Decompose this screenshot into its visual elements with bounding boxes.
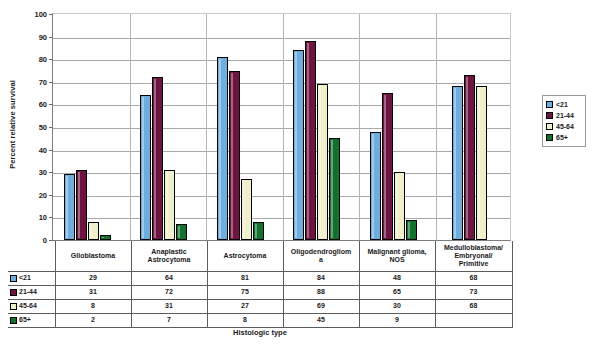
- table-column-header: Medulloblastoma/Embryonal/Primitive: [435, 241, 512, 272]
- y-axis-tick-label: 80: [39, 55, 47, 64]
- bar: [76, 170, 87, 240]
- legend-item[interactable]: 21-44: [546, 110, 582, 121]
- y-axis-title: Percent relative survival: [2, 0, 22, 248]
- table-cell: 68: [435, 272, 512, 286]
- table-column-header: Glioblastoma: [55, 241, 131, 272]
- legend-item-label: 21-44: [556, 112, 574, 119]
- gridline: [53, 218, 510, 219]
- table-row-label-text: <21: [19, 274, 31, 282]
- table-cell: 27: [207, 300, 283, 314]
- table-cell: 29: [55, 272, 131, 286]
- y-axis-tick-mark: [49, 127, 53, 128]
- y-axis-tick-label: 50: [39, 123, 47, 132]
- table-cell: 31: [55, 286, 131, 300]
- table-cell: 73: [435, 286, 512, 300]
- y-axis-tick-mark: [49, 195, 53, 196]
- bar: [394, 172, 405, 240]
- legend-item-label: <21: [556, 101, 568, 108]
- table-cell: 7: [131, 314, 207, 328]
- y-axis-tick-label: 10: [39, 213, 47, 222]
- table-column-header: Malignant glioma,NOS: [359, 241, 435, 272]
- bar: [293, 50, 304, 240]
- bar: [176, 224, 187, 240]
- table-cell: 84: [283, 272, 359, 286]
- bar: [88, 222, 99, 240]
- bar: [152, 77, 163, 240]
- y-axis-tick-mark: [49, 37, 53, 38]
- gridline: [53, 128, 510, 129]
- gridline: [53, 105, 510, 106]
- bar: [140, 95, 151, 240]
- legend-item-label: 45-64: [556, 123, 574, 130]
- table-cell: 65: [359, 286, 435, 300]
- legend-item[interactable]: <21: [546, 99, 582, 110]
- table-row-label: <21: [8, 272, 55, 286]
- table-cell: 88: [283, 286, 359, 300]
- group-separator: [359, 14, 360, 240]
- bar: [241, 179, 252, 240]
- table-row: 21-44317275886573: [8, 286, 512, 300]
- table-row-label: 65+: [8, 314, 55, 328]
- table-cell: 69: [283, 300, 359, 314]
- table-column-header: Astrocytoma: [207, 241, 283, 272]
- bar: [164, 170, 175, 240]
- table-cell: 8: [207, 314, 283, 328]
- legend-item-label: 65+: [556, 134, 568, 141]
- bar: [229, 71, 240, 241]
- table-column-header: AnaplasticAstrocytoma: [131, 241, 207, 272]
- y-axis-tick-label: 60: [39, 100, 47, 109]
- legend-swatch-icon: [546, 101, 553, 108]
- y-axis-tick-mark: [49, 217, 53, 218]
- y-axis-tick-mark: [49, 14, 53, 15]
- bar: [64, 174, 75, 240]
- bar: [100, 235, 111, 240]
- y-axis-tick-label: 30: [39, 168, 47, 177]
- bar: [452, 86, 463, 240]
- table-cell: 48: [359, 272, 435, 286]
- y-axis-tick-mark: [49, 172, 53, 173]
- table-row-swatch-icon: [10, 317, 17, 324]
- table-body: <2129648184486821-4431727588657345-64831…: [8, 272, 512, 328]
- table-row-swatch-icon: [10, 303, 17, 310]
- gridline: [53, 173, 510, 174]
- table-cell: 2: [55, 314, 131, 328]
- bar: [476, 86, 487, 240]
- table-cell: 8: [55, 300, 131, 314]
- table-row-swatch-icon: [10, 289, 17, 296]
- bar: [253, 222, 264, 240]
- legend-swatch-icon: [546, 123, 553, 130]
- chart-legend: <2121-4445-6465+: [542, 95, 586, 147]
- legend-item[interactable]: 65+: [546, 132, 582, 143]
- group-separator: [130, 14, 131, 240]
- chart-plot-area: [52, 13, 511, 241]
- table-cell: 45: [283, 314, 359, 328]
- bar: [382, 93, 393, 240]
- table-row-label-text: 65+: [19, 316, 31, 324]
- y-axis-tick-label: 40: [39, 145, 47, 154]
- bar: [305, 41, 316, 240]
- x-axis-title: Histologic type: [8, 328, 512, 337]
- bar: [317, 84, 328, 240]
- bar: [464, 75, 475, 240]
- y-axis-tick-mark: [49, 150, 53, 151]
- gridline: [53, 38, 510, 39]
- table-cell: [435, 314, 512, 328]
- table-row-label: 45-64: [8, 300, 55, 314]
- y-axis-tick-mark: [49, 104, 53, 105]
- group-separator: [283, 14, 284, 240]
- table-head: GlioblastomaAnaplasticAstrocytomaAstrocy…: [8, 241, 512, 272]
- legend-swatch-icon: [546, 112, 553, 119]
- y-axis-tick-label: 20: [39, 190, 47, 199]
- y-axis-title-label: Percent relative survival: [8, 80, 17, 169]
- y-axis-tick-label: 70: [39, 77, 47, 86]
- y-axis-tick-mark: [49, 82, 53, 83]
- legend-item[interactable]: 45-64: [546, 121, 582, 132]
- table-cell: 72: [131, 286, 207, 300]
- chart-data-table: GlioblastomaAnaplasticAstrocytomaAstrocy…: [8, 241, 513, 328]
- table-column-header: Oligodendroglioma: [283, 241, 359, 272]
- table-corner-cell: [8, 241, 55, 272]
- bar: [406, 220, 417, 240]
- bar: [329, 138, 340, 240]
- group-separator: [206, 14, 207, 240]
- table-cell: 31: [131, 300, 207, 314]
